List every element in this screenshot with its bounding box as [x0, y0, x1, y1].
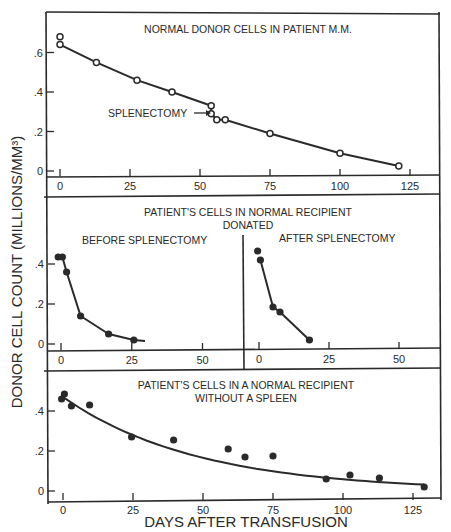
data-point-open	[396, 163, 402, 169]
data-point-filled	[68, 402, 75, 409]
x-axis-label: DAYS AFTER TRANSFUSION	[144, 513, 348, 530]
data-point-open	[267, 130, 273, 136]
data-point-open	[169, 89, 175, 95]
panel-middle-title: PATIENT'S CELLS IN NORMAL RECIPIENT	[144, 206, 352, 218]
y-mid-tick-label: .2	[35, 298, 44, 310]
data-point-filled	[421, 483, 428, 490]
figure-frame	[44, 12, 441, 504]
data-point-open	[134, 77, 140, 83]
data-point-open	[337, 150, 343, 156]
data-point-filled	[276, 308, 283, 315]
data-point-filled	[63, 268, 70, 275]
data-point-filled	[269, 303, 276, 310]
x-mid-right-tick-label: 50	[393, 353, 405, 365]
data-point-open	[222, 117, 228, 123]
y-bot-tick-label: .2	[35, 445, 44, 457]
data-point-filled	[170, 436, 177, 443]
y-axis-title: DONOR CELL COUNT (MILLIONS/MM³)	[8, 136, 25, 409]
x-bot-tick-label: 100	[334, 504, 352, 516]
panel-middle-after-plot	[254, 247, 313, 343]
x-top-tick-label: 100	[331, 180, 349, 192]
data-point-open	[57, 42, 63, 48]
data-point-open	[57, 34, 63, 40]
panel-top-plot: SPLENECTOMY	[57, 34, 402, 169]
data-point-filled	[376, 474, 383, 481]
x-bot-tick-label: 75	[267, 504, 279, 516]
x-bot-tick-label: 50	[197, 504, 209, 516]
data-point-filled	[105, 330, 112, 337]
y-mid-tick-label: .4	[35, 258, 44, 270]
splenectomy-annotation: SPLENECTOMY	[108, 107, 187, 119]
data-point-filled	[346, 471, 353, 478]
figure: DONOR CELL COUNT (MILLIONS/MM³) DAYS AFT…	[0, 0, 451, 532]
before-splenectomy-label: BEFORE SPLENECTOMY	[82, 234, 207, 246]
data-curve	[62, 257, 145, 341]
data-point-filled	[61, 390, 68, 397]
y-top-tick-label: .2	[34, 126, 43, 138]
data-point-filled	[241, 453, 248, 460]
data-point-filled	[128, 433, 135, 440]
data-point-filled	[225, 445, 232, 452]
x-bot-tick-label: 0	[60, 504, 66, 516]
panel-top-title: NORMAL DONOR CELLS IN PATIENT M.M.	[144, 23, 352, 35]
data-point-open	[93, 59, 99, 65]
data-point-filled	[77, 312, 84, 319]
panel-middle-subtitle: DONATED	[223, 219, 274, 231]
x-mid-right-tick-label: 25	[323, 353, 335, 365]
panel-middle-before-plot	[55, 253, 145, 343]
y-bot-tick-label: .4	[35, 405, 44, 417]
x-mid-left-tick-label: 25	[126, 354, 138, 366]
x-top-tick-label: 50	[194, 180, 206, 192]
panel-titles: NORMAL DONOR CELLS IN PATIENT M.M.PATIEN…	[82, 23, 396, 404]
x-top-tick-label: 0	[57, 180, 63, 192]
y-top-tick-label: .6	[34, 47, 43, 59]
panel-bottom-subtitle: WITHOUT A SPLEEN	[195, 392, 297, 404]
x-mid-left-tick-label: 0	[58, 354, 64, 366]
data-curve	[60, 45, 399, 167]
y-mid-tick-label: 0	[38, 338, 44, 350]
after-splenectomy-label: AFTER SPLENECTOMY	[279, 232, 396, 244]
data-point-filled	[257, 256, 264, 263]
y-bot-tick-label: 0	[38, 485, 44, 497]
y-axis-label: DONOR CELL COUNT (MILLIONS/MM³)	[8, 136, 25, 409]
x-axis-title: DAYS AFTER TRANSFUSION	[144, 513, 348, 530]
data-point-filled	[306, 336, 313, 343]
x-top-tick-label: 75	[264, 180, 276, 192]
x-mid-left-tick-label: 50	[196, 354, 208, 366]
y-top-tick-label: .4	[34, 86, 43, 98]
data-point-filled	[254, 247, 261, 254]
data-point-filled	[130, 336, 137, 343]
panel-bottom-plot	[58, 390, 428, 490]
x-bot-tick-label: 25	[127, 504, 139, 516]
x-bot-tick-label: 125	[404, 504, 422, 516]
y-top-tick-label: 0	[37, 165, 43, 177]
x-mid-right-tick-label: 0	[256, 353, 262, 365]
data-point-filled	[323, 475, 330, 482]
x-top-tick-label: 125	[401, 180, 419, 192]
data-curve	[260, 260, 309, 340]
data-point-filled	[86, 401, 93, 408]
data-point-filled	[269, 452, 276, 459]
data-point-open	[208, 103, 214, 109]
data-point-open	[214, 117, 220, 123]
x-top-tick-label: 25	[124, 180, 136, 192]
data-point-filled	[59, 253, 66, 260]
data-curve	[62, 397, 425, 485]
panel-bottom-title: PATIENT'S CELLS IN A NORMAL RECIPIENT	[138, 379, 355, 391]
